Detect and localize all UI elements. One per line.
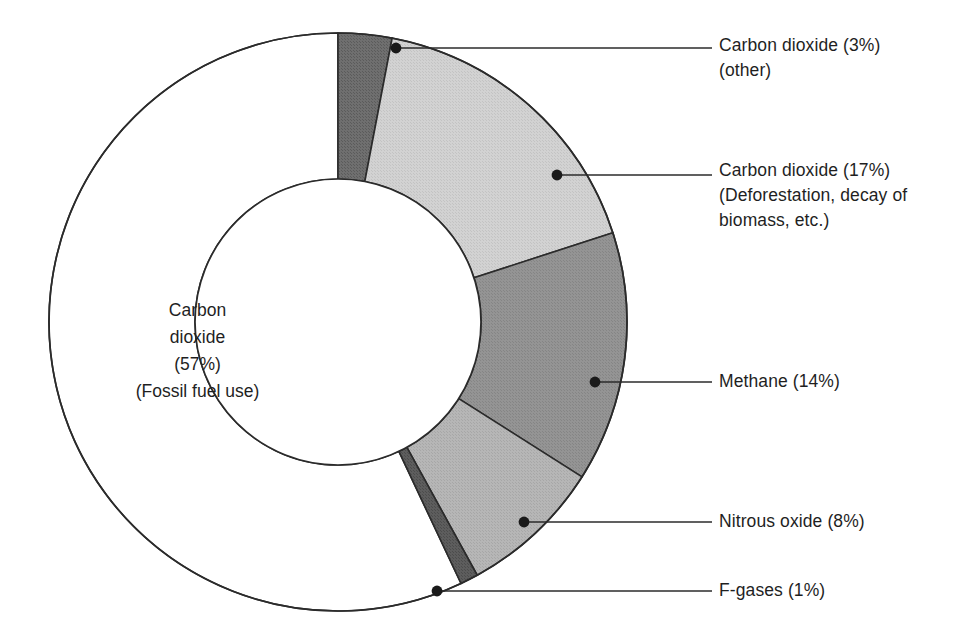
slice-label-co2-deforestation-line2: (Deforestation, decay of (719, 183, 907, 208)
leader-dot-co2-other (391, 43, 402, 54)
slice-label-co2-other-line1: Carbon dioxide (3%) (719, 33, 880, 58)
slice-label-co2-fossil-fuel-line1: Carbon (60, 297, 335, 324)
slice-label-co2-deforestation: Carbon dioxide (17%) (Deforestation, dec… (719, 158, 907, 233)
slice-label-nitrous-oxide-line1: Nitrous oxide (8%) (719, 509, 865, 534)
slice-label-co2-other-line2: (other) (719, 58, 880, 83)
leader-f-gases (432, 586, 712, 597)
slice-label-co2-fossil-fuel: Carbon dioxide (57%) (Fossil fuel use) (60, 297, 335, 405)
leader-dot-co2-deforestation (552, 170, 563, 181)
leader-dot-f-gases (432, 586, 443, 597)
slice-label-nitrous-oxide: Nitrous oxide (8%) (719, 509, 865, 534)
slice-label-methane-line1: Methane (14%) (719, 369, 840, 394)
slice-label-co2-other: Carbon dioxide (3%) (other) (719, 33, 880, 83)
slice-label-co2-deforestation-line1: Carbon dioxide (17%) (719, 158, 907, 183)
leader-dot-methane (590, 377, 601, 388)
slice-label-methane: Methane (14%) (719, 369, 840, 394)
slice-label-f-gases-line1: F-gases (1%) (719, 578, 825, 603)
slice-label-co2-deforestation-line3: biomass, etc.) (719, 208, 907, 233)
donut-chart: Carbon dioxide (3%) (other) Carbon dioxi… (0, 0, 971, 644)
slice-label-co2-fossil-fuel-line4: (Fossil fuel use) (60, 378, 335, 405)
slice-label-co2-fossil-fuel-line3: (57%) (60, 351, 335, 378)
leader-dot-nitrous-oxide (519, 517, 530, 528)
slice-label-co2-fossil-fuel-line2: dioxide (60, 324, 335, 351)
slice-label-f-gases: F-gases (1%) (719, 578, 825, 603)
